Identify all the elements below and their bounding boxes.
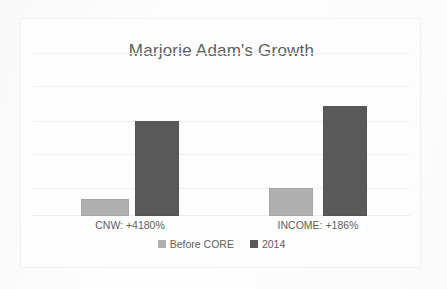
chart-legend: Before CORE 2014 <box>21 238 422 250</box>
legend-label-2014: 2014 <box>262 238 285 250</box>
bar-income-2014[interactable] <box>323 106 367 216</box>
legend-swatch-2014-icon <box>250 240 258 248</box>
legend-entry-2014[interactable]: 2014 <box>250 238 285 250</box>
category-label-income: INCOME: +186% <box>243 219 393 231</box>
category-axis: CNW: +4180% INCOME: +186% <box>33 219 410 239</box>
gridline-top <box>33 53 410 54</box>
plot-area <box>33 53 410 216</box>
legend-entry-before-core[interactable]: Before CORE <box>158 238 234 250</box>
chart-canvas: Marjorie Adam's Growth CNW: +4180% INCOM… <box>0 0 447 289</box>
gridline-4 <box>33 86 410 87</box>
bar-cnw-2014[interactable] <box>135 121 179 216</box>
bar-cnw-before-core[interactable] <box>81 199 129 216</box>
chart-frame: Marjorie Adam's Growth CNW: +4180% INCOM… <box>20 18 421 268</box>
legend-swatch-before-core-icon <box>158 240 166 248</box>
bar-income-before-core[interactable] <box>269 188 313 216</box>
legend-label-before-core: Before CORE <box>170 238 234 250</box>
category-label-cnw: CNW: +4180% <box>55 219 205 231</box>
